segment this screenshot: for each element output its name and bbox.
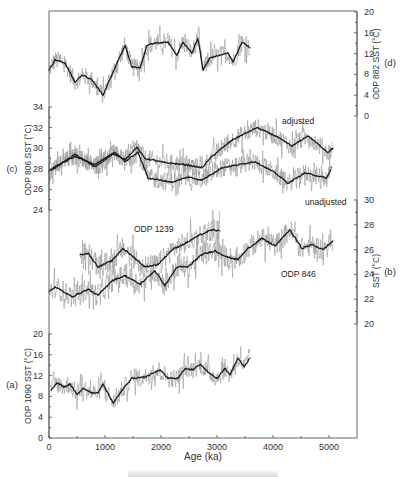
data-point-adjusted xyxy=(185,164,186,165)
y-tick-label-c: 24 xyxy=(33,205,43,215)
y-tick-label-b: 28 xyxy=(364,220,374,230)
data-point-adjusted xyxy=(136,147,137,148)
data-point-odp-1090-smoothed xyxy=(200,364,201,365)
ylabel-b: SST (°C) xyxy=(371,254,381,288)
data-point-odp-882-smoothed xyxy=(176,55,177,56)
data-point-odp-882-smoothed xyxy=(167,42,168,43)
annotation-unadjusted: unadjusted xyxy=(305,197,347,207)
data-point-adjusted xyxy=(307,135,308,136)
data-point-adjusted xyxy=(164,162,165,163)
data-point-odp-1239 xyxy=(88,253,89,254)
data-point-odp-882-smoothed xyxy=(228,53,229,54)
data-point-unadjusted xyxy=(54,167,55,168)
data-point-odp-1090-smoothed xyxy=(237,357,238,358)
data-point-odp-882-smoothed xyxy=(131,67,132,68)
data-point-odp-1090-smoothed xyxy=(83,388,84,389)
data-point-odp-1090-smoothed xyxy=(56,382,57,383)
data-point-odp-846 xyxy=(125,275,126,276)
y-tick-label-d: 4 xyxy=(364,90,369,100)
x-tick-label: 5000 xyxy=(319,442,339,452)
data-point-odp-882-smoothed xyxy=(202,70,203,71)
data-point-odp-1090-smoothed xyxy=(167,378,168,379)
data-point-odp-846 xyxy=(176,266,177,267)
y-tick-label-c: 26 xyxy=(33,184,43,194)
data-point-odp-882-smoothed xyxy=(197,37,198,38)
panel-letter-b: (b) xyxy=(384,266,396,277)
data-point-adjusted xyxy=(275,135,276,136)
data-point-odp-1090-smoothed xyxy=(178,378,179,379)
y-tick-label-d: 20 xyxy=(364,7,374,17)
data-point-adjusted xyxy=(232,139,233,140)
data-point-odp-1090-smoothed xyxy=(144,377,145,378)
data-point-adjusted xyxy=(327,152,328,153)
y-tick-label-a: 8 xyxy=(38,391,43,401)
data-point-unadjusted xyxy=(115,152,116,153)
data-point-odp-1239 xyxy=(185,243,186,244)
panel-letter-d: (d) xyxy=(384,57,396,68)
data-point-adjusted xyxy=(256,127,257,128)
data-point-odp-846 xyxy=(71,296,72,297)
data-point-odp-882-smoothed xyxy=(125,45,126,46)
x-tick-label: 4000 xyxy=(263,442,283,452)
data-point-odp-846 xyxy=(248,248,249,249)
y-tick-label-a: 12 xyxy=(33,371,43,381)
figure-caption-cropped xyxy=(128,470,278,477)
data-point-odp-846 xyxy=(332,240,333,241)
data-point-odp-1090-smoothed xyxy=(131,378,132,379)
y-tick-label-c: 28 xyxy=(33,164,43,174)
data-point-odp-1090-smoothed xyxy=(113,403,114,404)
data-point-odp-1090-smoothed xyxy=(69,383,70,384)
y-tick-label-c: 32 xyxy=(33,123,43,133)
data-point-odp-1090-smoothed xyxy=(97,392,98,393)
data-point-adjusted xyxy=(144,158,145,159)
data-point-odp-1239 xyxy=(172,249,173,250)
data-point-odp-1090-smoothed xyxy=(159,369,160,370)
data-point-unadjusted xyxy=(331,167,332,168)
data-point-odp-1090-smoothed xyxy=(225,368,226,369)
y-tick-label-b: 22 xyxy=(364,294,374,304)
data-point-odp-882-smoothed xyxy=(139,68,140,69)
data-point-unadjusted xyxy=(137,152,138,153)
data-point-odp-1239 xyxy=(111,260,112,261)
data-point-odp-1090-smoothed xyxy=(192,369,193,370)
data-point-odp-882-smoothed xyxy=(191,53,192,54)
data-point-odp-846 xyxy=(139,284,140,285)
data-point-adjusted xyxy=(125,159,126,160)
data-point-odp-846 xyxy=(301,248,302,249)
y-tick-label-a: 16 xyxy=(33,350,43,360)
data-point-odp-846 xyxy=(187,266,188,267)
data-point-odp-1090-smoothed xyxy=(207,371,208,372)
data-point-unadjusted xyxy=(221,167,222,168)
data-point-unadjusted xyxy=(74,154,75,155)
annotation-odp-1239: ODP 1239 xyxy=(134,224,174,234)
data-point-unadjusted xyxy=(125,161,126,162)
data-point-odp-1090-smoothed xyxy=(51,390,52,391)
data-point-odp-846 xyxy=(88,289,89,290)
data-point-unadjusted xyxy=(326,178,327,179)
data-point-odp-846 xyxy=(323,249,324,250)
data-point-odp-1239 xyxy=(97,266,98,267)
data-point-adjusted xyxy=(332,148,333,149)
data-point-odp-882-smoothed xyxy=(92,80,93,81)
data-point-odp-1239 xyxy=(197,235,198,236)
data-point-odp-1090-smoothed xyxy=(122,390,123,391)
data-point-odp-1239 xyxy=(144,266,145,267)
x-tick-label: 2000 xyxy=(151,442,171,452)
data-point-odp-846 xyxy=(214,250,215,251)
data-point-odp-846 xyxy=(275,245,276,246)
data-point-odp-882-smoothed xyxy=(102,95,103,96)
data-point-odp-1090-smoothed xyxy=(229,375,230,376)
data-point-odp-846 xyxy=(54,286,55,287)
data-point-odp-1239 xyxy=(157,264,158,265)
data-point-odp-846 xyxy=(154,270,155,271)
y-tick-label-a: 20 xyxy=(33,329,43,339)
data-point-odp-1090-smoothed xyxy=(102,383,103,384)
data-point-odp-1090-smoothed xyxy=(92,392,93,393)
data-point-odp-1239 xyxy=(134,258,135,259)
data-point-unadjusted xyxy=(148,178,149,179)
data-point-odp-882-smoothed xyxy=(64,62,65,63)
data-point-unadjusted xyxy=(304,172,305,173)
data-point-odp-846 xyxy=(289,229,290,230)
annotation-adjusted: adjusted xyxy=(282,116,314,126)
data-point-odp-1090-smoothed xyxy=(64,386,65,387)
